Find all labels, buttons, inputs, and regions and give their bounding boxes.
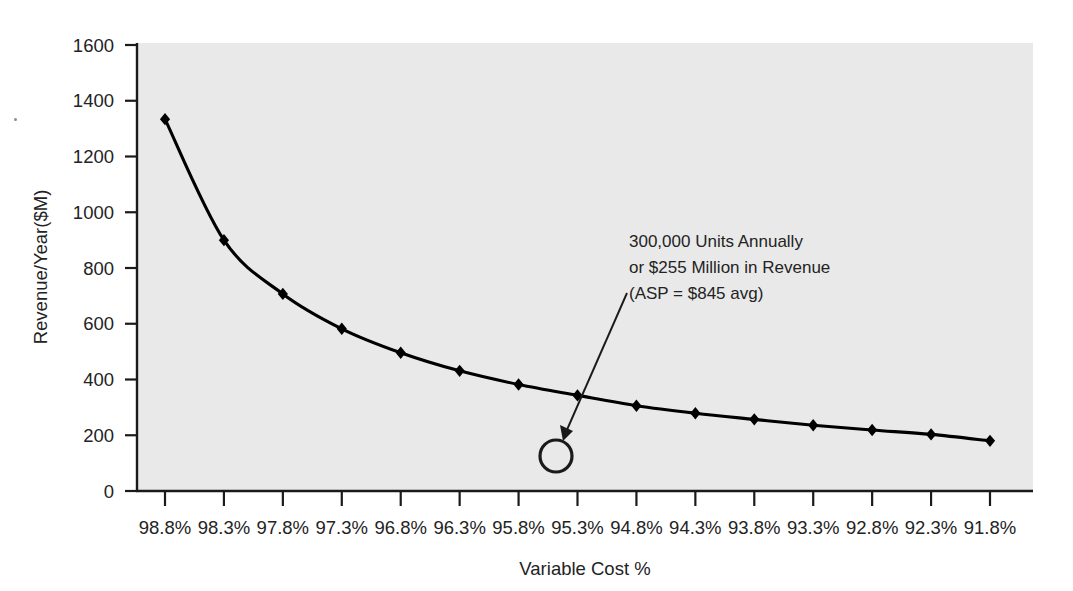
x-tick-label: 94.3% — [669, 517, 721, 538]
y-tick-label: 1000 — [73, 202, 114, 223]
x-tick-label: 96.3% — [433, 517, 485, 538]
x-tick-label: 92.8% — [846, 517, 898, 538]
x-tick-label: 98.8% — [139, 517, 191, 538]
x-tick-label: 91.8% — [964, 517, 1016, 538]
callout-line-1: 300,000 Units Annually — [629, 232, 803, 251]
callout-line-2: or $255 Million in Revenue — [629, 258, 830, 277]
x-tick-label: 93.3% — [787, 517, 839, 538]
y-tick-label: 1600 — [73, 35, 114, 56]
y-tick-label: 1400 — [73, 90, 114, 111]
scan-speck — [14, 118, 17, 121]
y-axis-title: Revenue/Year($M) — [30, 190, 51, 345]
y-tick-label: 800 — [83, 258, 114, 279]
x-tick-label: 95.8% — [492, 517, 544, 538]
x-tick-label: 97.8% — [257, 517, 309, 538]
x-tick-label: 93.8% — [728, 517, 780, 538]
y-tick-label: 200 — [83, 425, 114, 446]
revenue-vs-variable-cost-chart: 02004006008001000120014001600 98.8%98.3%… — [0, 0, 1073, 591]
x-tick-label: 94.8% — [610, 517, 662, 538]
y-tick-label: 400 — [83, 369, 114, 390]
chart-figure: 02004006008001000120014001600 98.8%98.3%… — [0, 0, 1073, 591]
y-tick-label: 0 — [104, 481, 114, 502]
y-tick-label: 600 — [83, 313, 114, 334]
x-axis-ticks: 98.8%98.3%97.8%97.3%96.8%96.3%95.8%95.3%… — [139, 491, 1016, 538]
x-tick-label: 97.3% — [316, 517, 368, 538]
y-axis-ticks: 02004006008001000120014001600 — [73, 35, 137, 502]
x-tick-label: 96.8% — [374, 517, 426, 538]
x-tick-label: 92.3% — [905, 517, 957, 538]
callout-line-3: (ASP = $845 avg) — [629, 284, 763, 303]
y-tick-label: 1200 — [73, 146, 114, 167]
x-tick-label: 95.3% — [551, 517, 603, 538]
x-tick-label: 98.3% — [198, 517, 250, 538]
x-axis-title: Variable Cost % — [519, 558, 650, 579]
plot-area-background — [137, 43, 1033, 491]
